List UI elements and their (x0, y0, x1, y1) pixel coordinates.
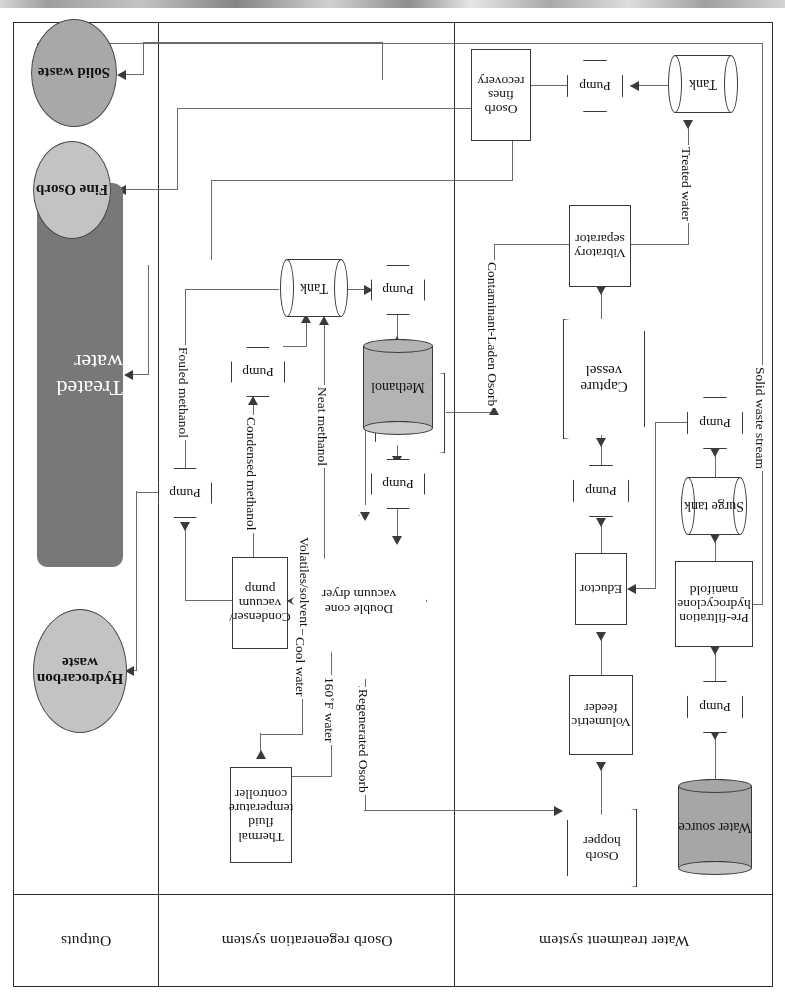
node-water-source: Water source (678, 779, 752, 875)
edge-label-volatiles-solvent: Volatiles/solvent (296, 535, 312, 629)
node-pump-3: Pump (573, 465, 629, 517)
eductor-label: Eductor (580, 582, 623, 596)
edge-regenerated-osorb-left (364, 810, 556, 811)
thermal-controller-label: Thermal fluid temperature controller (229, 786, 293, 843)
node-osorb-fines-recovery: Osorb fines recovery (471, 49, 531, 141)
arrow-feeder-eductor (596, 632, 606, 641)
arrow-cool-water-controller (256, 750, 266, 759)
capture-vessel-label: Capture vessel (563, 319, 645, 439)
output-solid-waste: Solid waste (31, 19, 117, 127)
edge-hydrocarbon-down (136, 491, 137, 671)
arrow-pump1-prefiltration (710, 646, 720, 655)
lane-divider-1 (454, 22, 455, 987)
process-flow-diagram: Outputs Osorb regeneration system Water … (0, 0, 785, 1005)
tank-water-label: Tank (668, 55, 738, 113)
scan-artifact-strip (0, 0, 785, 8)
edge-solidwaste-up (762, 43, 763, 605)
node-methanol: Methanol (363, 339, 433, 435)
node-pump-2: Pump (687, 397, 743, 449)
lane-label-water-treatment: Water treatment system (455, 895, 773, 987)
output-hydrocarbon-waste: Hydrocarbon waste (33, 609, 127, 733)
node-condenser-vacuum-pump: Condenser/ vacuum pump (232, 557, 288, 649)
edge-label-cool-water: Cool water (292, 635, 308, 699)
lane-label-osorb-regeneration: Osorb regeneration system (159, 895, 455, 987)
lane-label-outputs-text: Outputs (61, 932, 112, 950)
arrow-to-solid-waste (117, 70, 126, 80)
node-surge-tank: Surge tank (681, 477, 747, 535)
node-pump-6: Pump (371, 265, 425, 315)
edge-fines-bottom-to-tank (211, 180, 212, 260)
arrow-hopperfeed-feeder (596, 762, 606, 771)
node-vibratory-separator: Vibratory separator (569, 205, 631, 287)
pump-6-label: Pump (371, 265, 425, 315)
edge-label-fouled-methanol: Fouled methanol (175, 345, 191, 440)
node-prefiltration-hydrocyclone-manifold: Pre-filtration hydrocyclone manifold (675, 561, 753, 647)
node-pump-1: Pump (687, 681, 743, 733)
node-tank-water: Tank (668, 55, 738, 113)
node-pump-7: Pump (231, 347, 285, 397)
treated-water-label: Treated water (37, 349, 123, 401)
arrow-to-eductor (627, 584, 636, 594)
edge-condenser-right (185, 600, 232, 601)
osorb-fines-recovery-label: Osorb fines recovery (472, 74, 530, 117)
pump-4-label: Pump (567, 60, 623, 112)
arrow-eductor-pump3 (596, 518, 606, 527)
edge-fines-bottom-down (512, 139, 513, 181)
lane-label-osorb-regeneration-text: Osorb regeneration system (221, 932, 392, 950)
methanol-label: Methanol (363, 339, 433, 435)
edge-fines-right (177, 108, 471, 109)
edge-fouled-into-tank (185, 289, 279, 290)
edge-pump8-hydrocarbon (136, 492, 158, 493)
edge-contaminant-into-hopper (446, 412, 494, 413)
arrow-into-treated-water (124, 370, 133, 380)
tank-methanol-label: Tank (280, 259, 348, 317)
arrow-neat-methanol (319, 316, 329, 325)
edge-top-return-2 (143, 43, 144, 75)
node-eductor: Eductor (575, 553, 627, 625)
prefiltration-label: Pre-filtration hydrocyclone manifold (676, 583, 752, 626)
node-pump-4: Pump (567, 60, 623, 112)
hydrocarbon-waste-label: Hydrocarbon waste (34, 655, 126, 687)
edge-label-condensed-methanol: Condensed methanol (243, 415, 259, 533)
output-fine-osorb: Fine Osorb (33, 141, 111, 239)
node-pump-8: Pump (158, 468, 212, 518)
arrow-condenser-pump8 (180, 522, 190, 531)
lane-label-water-treatment-text: Water treatment system (539, 932, 689, 950)
edge-fines-bottom-across (211, 180, 513, 181)
fine-osorb-label: Fine Osorb (36, 182, 108, 198)
lane-label-outputs: Outputs (13, 895, 159, 987)
condenser-label: Condenser/ vacuum pump (229, 582, 291, 625)
edge-top-return-1 (143, 42, 383, 43)
node-osorb-hopper-feed: Osorb hopper (567, 809, 637, 887)
vibratory-separator-label: Vibratory separator (570, 232, 630, 261)
edge-solidwaste-top (37, 43, 763, 44)
solid-waste-label: Solid waste (38, 65, 110, 81)
arrow-prefiltration-surgetank (710, 534, 720, 543)
edge-label-regenerated-osorb: Regenerated Osorb (355, 687, 371, 795)
node-tank-methanol: Tank (280, 259, 348, 317)
arrow-pump3-capture (596, 438, 606, 447)
edge-pump4-up (382, 42, 383, 80)
edge-condenser-up-pump8 (185, 525, 186, 601)
edge-160f-water-left (290, 776, 332, 777)
edge-pump7-left (283, 346, 307, 347)
arrow-tankwater-pump4 (630, 81, 639, 91)
pump-7-label: Pump (231, 347, 285, 397)
node-thermal-fluid-temperature-controller: Thermal fluid temperature controller (230, 767, 292, 863)
pump-8-label: Pump (158, 468, 212, 518)
surge-tank-label: Surge tank (681, 477, 747, 535)
arrow-condensed-to-pump7 (248, 396, 258, 405)
output-treated-water: Treated water (37, 183, 123, 567)
osorb-hopper-feed-label: Osorb hopper (567, 809, 637, 887)
edge-label-160f-water: 160˚F water (321, 675, 337, 745)
arrow-regenerated-osorb (554, 806, 563, 816)
node-capture-vessel: Capture vessel (563, 319, 645, 439)
node-volumetric-feeder: Volumetric feeder (569, 675, 633, 755)
edge-vibratory-right (494, 244, 569, 245)
edge-label-contaminant-laden-osorb: Contaminant-Laden Osorb (484, 260, 500, 408)
edge-pump4-fines (529, 85, 567, 86)
water-source-label: Water source (678, 779, 752, 875)
edge-label-treated-water: Treated water (678, 145, 694, 223)
diagram-rotated-wrapper: Outputs Osorb regeneration system Water … (0, 0, 785, 1005)
node-pump-5: Pump (371, 459, 425, 509)
